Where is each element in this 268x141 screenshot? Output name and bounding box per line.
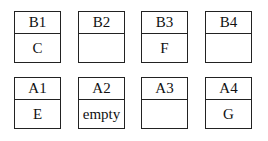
cell-b4: B4 xyxy=(205,11,252,63)
cell-content xyxy=(79,34,124,63)
cell-content xyxy=(142,100,187,129)
cell-a2: A2 empty xyxy=(78,77,125,129)
cell-label: A1 xyxy=(15,78,60,100)
cell-label: B1 xyxy=(15,12,60,34)
cell-label: B2 xyxy=(79,12,124,34)
cell-content: C xyxy=(15,34,60,63)
cell-label: A4 xyxy=(206,78,251,100)
cell-a3: A3 xyxy=(141,77,188,129)
cell-content: G xyxy=(206,100,251,129)
cell-content: E xyxy=(15,100,60,129)
cell-a4: A4 G xyxy=(205,77,252,129)
cell-label: A3 xyxy=(142,78,187,100)
cell-label: A2 xyxy=(79,78,124,100)
cell-label: B4 xyxy=(206,12,251,34)
cell-b1: B1 C xyxy=(14,11,61,63)
cell-content xyxy=(206,34,251,63)
cell-content: empty xyxy=(79,100,124,129)
cell-b2: B2 xyxy=(78,11,125,63)
cell-content: F xyxy=(142,34,187,63)
cell-label: B3 xyxy=(142,12,187,34)
cell-b3: B3 F xyxy=(141,11,188,63)
cell-a1: A1 E xyxy=(14,77,61,129)
